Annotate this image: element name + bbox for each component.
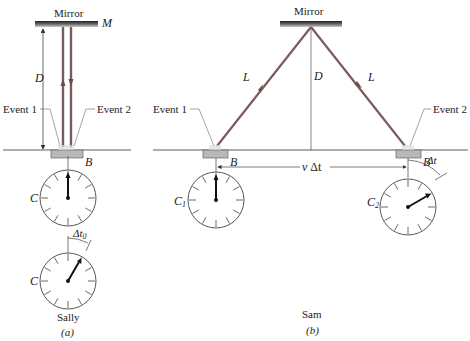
caption-a: (a) xyxy=(61,326,74,339)
block-b1 xyxy=(203,150,228,158)
mirror-label-b: Mirror xyxy=(294,5,324,17)
emitter-glow-a xyxy=(58,145,74,150)
distance-label-a: D xyxy=(34,71,44,85)
clock1-label-b: C1 xyxy=(174,194,186,209)
mirror-symbol-m: M xyxy=(101,16,113,30)
event2-label-a: Event 2 xyxy=(97,103,131,115)
path-right-label: L xyxy=(367,70,375,84)
clock1-label-a: C xyxy=(30,191,39,205)
panel-a: Mirror M D Event 1 Event 2 B xyxy=(3,7,131,339)
mirror-label-a: Mirror xyxy=(54,7,84,19)
clock-a-start xyxy=(40,170,96,226)
path-left-label: L xyxy=(242,70,250,84)
clock2-label-a: C xyxy=(30,274,39,288)
beam-left-b xyxy=(217,27,311,146)
event1-leader-b xyxy=(190,109,214,146)
time-dilation-diagram: Mirror M D Event 1 Event 2 B xyxy=(0,0,470,341)
block-b2 xyxy=(396,150,421,158)
block-label-a: B xyxy=(85,155,93,169)
beam-down-arrow-icon xyxy=(69,79,74,86)
distance-label-b: D xyxy=(313,69,323,83)
clock-c2 xyxy=(380,179,436,235)
interval-label-b: Δt xyxy=(426,154,437,166)
observer-label-sally: Sally xyxy=(57,311,80,323)
event2-label-b: Event 2 xyxy=(433,103,467,115)
beam-right-b xyxy=(311,27,405,146)
interval-label-a: Δt0 xyxy=(72,227,87,241)
block-b-a xyxy=(51,150,83,158)
event1-label-b: Event 1 xyxy=(153,103,187,115)
observer-label-sam: Sam xyxy=(302,308,322,320)
event2-leader-a xyxy=(74,109,95,146)
clock-a-end xyxy=(40,253,96,309)
event2-leader-b xyxy=(410,109,431,146)
displacement-label: vΔt xyxy=(302,160,322,174)
clock2-label-b: C2 xyxy=(367,195,379,210)
clock-c1 xyxy=(188,172,244,228)
mirror-a xyxy=(35,21,98,27)
mirror-b xyxy=(280,21,342,27)
panel-b: Mirror D L L Event 1 Event 2 B B vΔt xyxy=(153,5,468,337)
beam-up-arrow-icon xyxy=(61,79,66,86)
event1-label-a: Event 1 xyxy=(3,103,37,115)
caption-b: (b) xyxy=(306,324,319,337)
